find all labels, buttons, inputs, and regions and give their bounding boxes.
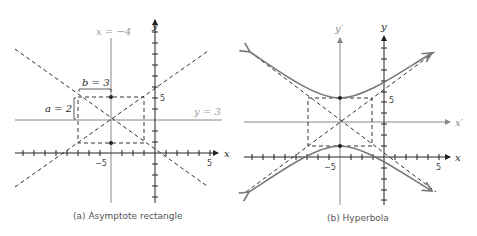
caption-a: (a) Asymptote rectangle	[73, 211, 183, 221]
x-tick-label-5: 5	[207, 159, 212, 168]
a-bracket	[74, 98, 76, 119]
vertex-top	[109, 95, 113, 99]
panel-a-asymptote-rectangle: x = −4 y = 3 b = 3 a = 2 y x −5 5 5 (a) …	[15, 20, 230, 221]
b-label: b = 3	[82, 77, 110, 88]
x-axis-label: x	[224, 148, 230, 159]
vertex-bottom	[109, 141, 113, 145]
x-tick-label-neg5: −5	[95, 159, 107, 168]
y-axis-label: y	[151, 20, 158, 31]
a-label: a = 2	[45, 103, 72, 114]
y-axis-label: y	[380, 21, 387, 32]
y-prime-axis-label: y′	[334, 23, 344, 34]
y-tick-label-5: 5	[160, 94, 165, 103]
caption-b: (b) Hyperbola	[327, 213, 389, 223]
hyperbola-upper-branch	[250, 52, 432, 98]
panel-b-hyperbola: y′ y x′ x −5 5 5 (b) Hyperbola	[244, 21, 464, 223]
vertical-line-label: x = −4	[96, 26, 131, 37]
horizontal-line-label: y = 3	[193, 106, 221, 117]
figure-canvas: x = −4 y = 3 b = 3 a = 2 y x −5 5 5 (a) …	[0, 0, 477, 236]
x-tick-label-neg5: −5	[324, 163, 336, 172]
x-tick-label-5: 5	[436, 163, 441, 172]
b-bracket	[79, 89, 111, 92]
vertex-top	[338, 96, 342, 100]
x-axis-label: x	[455, 152, 461, 163]
vertex-bottom	[338, 144, 342, 148]
y-tick-label-5: 5	[389, 96, 394, 105]
x-prime-axis-label: x′	[455, 117, 464, 128]
